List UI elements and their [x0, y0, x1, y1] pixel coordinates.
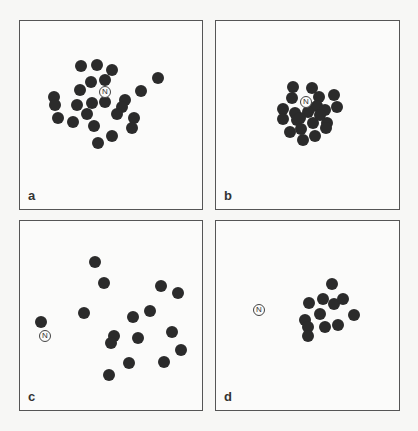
- panel-label-d: d: [224, 389, 232, 404]
- panel-label-c: c: [28, 389, 35, 404]
- panel-b: b: [215, 20, 400, 210]
- panel-label-b: b: [224, 188, 232, 203]
- panel-c: c: [19, 220, 203, 411]
- panel-a: a: [19, 20, 203, 210]
- panel-label-a: a: [28, 188, 35, 203]
- panel-d: d: [215, 220, 400, 411]
